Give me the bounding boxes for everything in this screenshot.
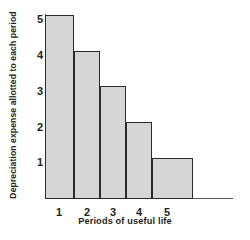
y-tick-label-3: 3 — [29, 86, 43, 97]
bar-chart: Depreciation expense allotted to each pe… — [0, 0, 250, 240]
bar-period-2 — [74, 51, 100, 199]
y-tick-label-5: 5 — [29, 14, 43, 25]
y-axis-tick-labels: 5 4 3 2 1 — [26, 0, 43, 240]
y-axis-title-text: Depreciation expense allotted to each pe… — [8, 11, 18, 198]
plot-area: 1 2 3 4 5 — [45, 14, 235, 200]
bar-period-4 — [126, 122, 152, 199]
y-tick-label-2: 2 — [29, 122, 43, 133]
y-axis-title: Depreciation expense allotted to each pe… — [0, 0, 26, 210]
y-tick-label-4: 4 — [29, 50, 43, 61]
y-tick-label-1: 1 — [29, 157, 43, 168]
x-axis-title: Periods of useful life — [0, 216, 250, 226]
bar-period-1 — [45, 15, 74, 199]
bar-period-5 — [152, 158, 193, 199]
bar-period-3 — [100, 86, 126, 199]
